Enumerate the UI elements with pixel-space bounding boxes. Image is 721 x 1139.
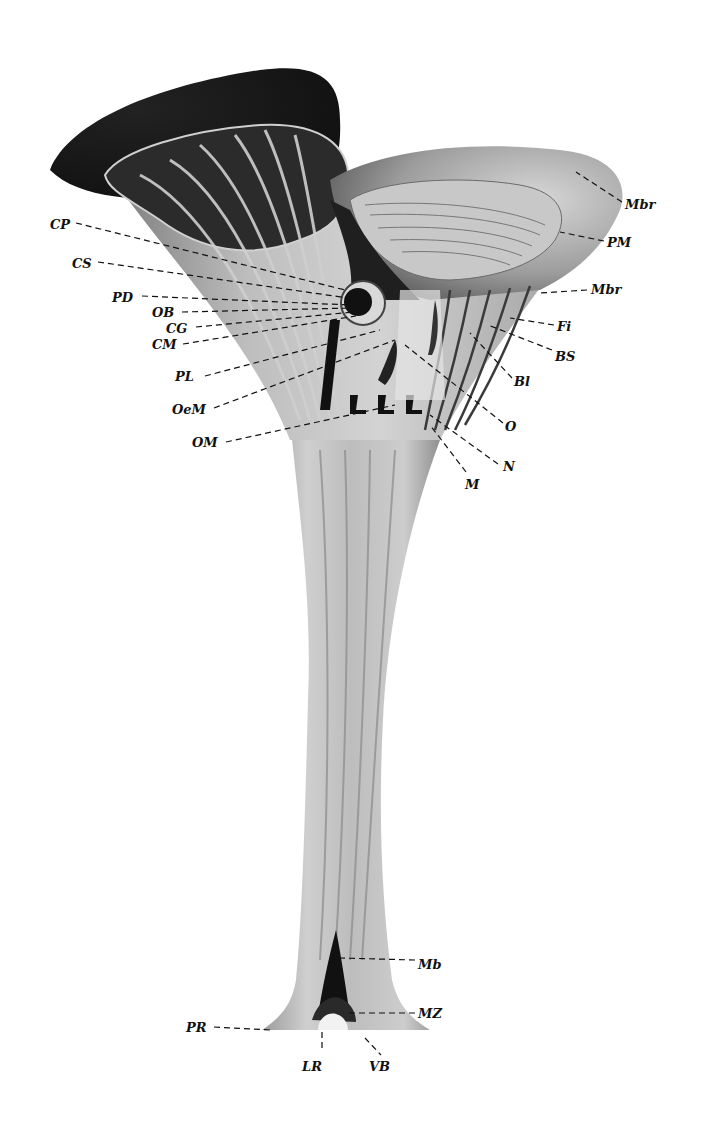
- label-mz: MZ: [418, 1007, 442, 1020]
- label-lr: LR: [302, 1060, 322, 1073]
- label-ob: OB: [152, 306, 174, 319]
- label-mb: Mb: [418, 958, 441, 971]
- label-vb: VB: [369, 1060, 390, 1073]
- leader-line-mbr2: [540, 290, 587, 293]
- label-fi: Fi: [557, 320, 571, 333]
- label-cp: CP: [50, 218, 70, 231]
- label-o: O: [505, 420, 516, 433]
- organ-dark: [344, 288, 372, 316]
- label-oem: OeM: [172, 403, 206, 416]
- leader-line-vb: [365, 1038, 381, 1055]
- label-m: M: [465, 478, 479, 491]
- label-cs: CS: [72, 257, 92, 270]
- label-pd: PD: [112, 291, 133, 304]
- label-mbr-lower: Mbr: [591, 283, 621, 296]
- label-cm: CM: [152, 338, 177, 351]
- label-mbr-upper: Mbr: [625, 198, 655, 211]
- anatomical-figure: [0, 0, 721, 1139]
- label-bl: Bl: [514, 375, 530, 388]
- label-bs: BS: [555, 350, 575, 363]
- label-n: N: [503, 460, 515, 473]
- label-pm: PM: [607, 236, 631, 249]
- label-cg: CG: [166, 322, 187, 335]
- label-pl: PL: [175, 370, 194, 383]
- label-pr: PR: [186, 1021, 207, 1034]
- leader-line-pr: [214, 1027, 270, 1030]
- label-om: OM: [192, 436, 218, 449]
